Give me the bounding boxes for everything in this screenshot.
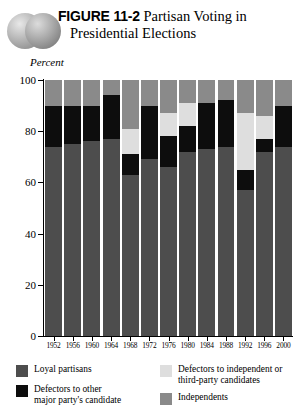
bar-segment — [179, 80, 196, 103]
legend-item-loyal-partisans: Loyal partisans — [16, 364, 154, 377]
bar-segment — [64, 144, 81, 336]
x-tick-label: 1968 — [121, 341, 140, 350]
bar-segment — [179, 126, 196, 152]
y-tick-label: 0 — [2, 330, 36, 342]
x-tick-label: 1992 — [236, 341, 255, 350]
legend-label-defectors-independent: Defectors to independent or third-party … — [178, 364, 282, 385]
x-tick-label: 1976 — [159, 341, 178, 350]
bar-segment — [218, 100, 235, 146]
bar-segment — [198, 103, 215, 149]
y-tick-mark — [38, 234, 43, 235]
bar-segment — [103, 139, 120, 336]
bar-column — [160, 80, 177, 336]
bar-segment — [256, 116, 273, 139]
chart-legend: Loyal partisans Defectors to other major… — [16, 364, 292, 412]
bar-segment — [237, 170, 254, 190]
bar-segment — [237, 113, 254, 169]
legend-label-line2: major party's candidate — [34, 395, 121, 405]
bar-segment — [160, 113, 177, 136]
bar-segment — [160, 80, 177, 113]
legend-label-line2: third-party candidates — [178, 375, 260, 385]
bar-segment — [198, 80, 215, 103]
bar-segment — [179, 152, 196, 336]
legend-item-defectors-independent: Defectors to independent or third-party … — [160, 364, 292, 385]
stacked-bar-series — [44, 80, 293, 336]
x-tick-label: 1996 — [255, 341, 274, 350]
legend-swatch-defectors-independent — [160, 365, 172, 377]
bar-segment — [256, 139, 273, 152]
x-tick-label: 1956 — [63, 341, 82, 350]
bar-column — [198, 80, 215, 336]
bar-column — [64, 80, 81, 336]
bar-column — [103, 80, 120, 336]
bar-segment — [45, 106, 62, 147]
bar-column — [256, 80, 273, 336]
bar-column — [122, 80, 139, 336]
x-tick-label: 2000 — [274, 341, 293, 350]
bar-segment — [218, 80, 235, 100]
legend-swatch-loyal-partisans — [16, 365, 28, 377]
y-tick-label: 80 — [2, 125, 36, 137]
chart-area: 020406080100 195219561960196419681972197… — [0, 0, 301, 360]
bar-segment — [141, 80, 158, 106]
legend-item-defectors-other-party: Defectors to other major party's candida… — [16, 384, 154, 405]
bar-segment — [141, 159, 158, 336]
bar-segment — [160, 167, 177, 336]
bar-column — [141, 80, 158, 336]
bar-segment — [64, 80, 81, 106]
bar-column — [275, 80, 292, 336]
legend-label-line1: Defectors to other — [34, 384, 102, 394]
bar-segment — [83, 106, 100, 142]
x-tick-label: 1980 — [178, 341, 197, 350]
bar-segment — [103, 80, 120, 95]
bar-segment — [218, 147, 235, 336]
legend-label-line1: Defectors to independent or — [178, 364, 282, 374]
bar-segment — [275, 106, 292, 147]
x-tick-label: 1984 — [197, 341, 216, 350]
bar-segment — [237, 80, 254, 113]
y-tick-label: 100 — [2, 74, 36, 86]
y-tick-mark — [38, 285, 43, 286]
bar-segment — [237, 190, 254, 336]
bar-segment — [122, 175, 139, 336]
bar-column — [45, 80, 62, 336]
bar-segment — [141, 106, 158, 160]
x-tick-label: 1960 — [82, 341, 101, 350]
y-tick-mark — [38, 336, 43, 337]
legend-label-defectors-other-party: Defectors to other major party's candida… — [34, 384, 121, 405]
legend-swatch-defectors-other-party — [16, 385, 28, 397]
bar-segment — [83, 141, 100, 336]
bar-segment — [256, 152, 273, 336]
bar-segment — [64, 106, 81, 144]
x-tick-label: 1972 — [140, 341, 159, 350]
bar-segment — [198, 149, 215, 336]
bar-column — [83, 80, 100, 336]
x-axis-labels: 1952195619601964196819721976198019841988… — [44, 341, 293, 350]
y-tick-mark — [38, 182, 43, 183]
bar-segment — [45, 80, 62, 106]
bar-segment — [122, 154, 139, 174]
bar-segment — [83, 80, 100, 106]
x-tick-label: 1952 — [44, 341, 63, 350]
bar-column — [237, 80, 254, 336]
y-tick-label: 60 — [2, 176, 36, 188]
y-tick-mark — [38, 131, 43, 132]
bar-segment — [256, 80, 273, 116]
legend-label-loyal-partisans: Loyal partisans — [34, 364, 92, 375]
bar-segment — [179, 103, 196, 126]
y-tick-mark — [38, 80, 43, 81]
x-tick-label: 1964 — [101, 341, 120, 350]
bar-segment — [122, 80, 139, 129]
bar-column — [179, 80, 196, 336]
legend-swatch-independents — [160, 393, 172, 405]
bar-segment — [122, 129, 139, 155]
x-tick-label: 1988 — [216, 341, 235, 350]
y-tick-label: 20 — [2, 279, 36, 291]
bar-segment — [275, 80, 292, 106]
legend-label-independents: Independents — [178, 392, 228, 403]
bar-segment — [103, 95, 120, 139]
bar-segment — [275, 147, 292, 336]
bar-segment — [160, 136, 177, 167]
bar-segment — [45, 147, 62, 336]
y-tick-label: 40 — [2, 228, 36, 240]
